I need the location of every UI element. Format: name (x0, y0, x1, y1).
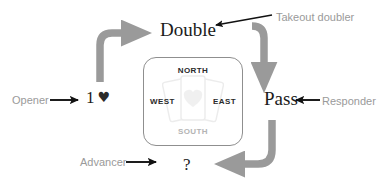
role-label-advancer: Advancer (80, 157, 126, 168)
compass-label-east: EAST (213, 98, 236, 106)
call-opening-bid: 1♥ (86, 89, 110, 106)
heart-suit-icon: ♥ (98, 89, 111, 105)
role-label-opener: Opener (12, 95, 49, 106)
role-label-responder: Responder (322, 96, 376, 107)
bridge-table-compass: NORTH WEST EAST SOUTH (143, 57, 243, 146)
bridge-auction-diagram: NORTH WEST EAST SOUTH Double Pass 1♥ ? O… (0, 0, 389, 184)
flow-arrow-opener-to-double (100, 33, 135, 82)
compass-label-south: SOUTH (178, 128, 208, 136)
pointer-arrow-takeout-doubler (216, 15, 272, 25)
compass-label-north: NORTH (178, 67, 208, 75)
role-label-takeout-doubler: Takeout doubler (276, 12, 354, 23)
call-pass: Pass (264, 89, 298, 108)
call-double: Double (160, 20, 216, 39)
flow-arrow-double-to-pass (252, 26, 264, 76)
call-advancer-unknown: ? (183, 156, 191, 173)
opening-bid-level: 1 (86, 88, 95, 107)
compass-label-west: WEST (150, 98, 175, 106)
